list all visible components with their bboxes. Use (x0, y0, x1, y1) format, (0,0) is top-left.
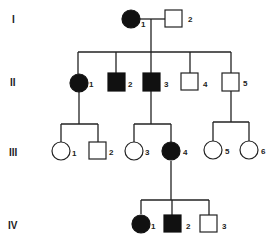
individual-I-2 (165, 10, 182, 27)
individual-number: 1 (151, 222, 156, 231)
individual-number: 2 (109, 148, 114, 157)
individual-number: 1 (89, 80, 94, 89)
individual-number: 2 (186, 222, 191, 231)
individual-IV-2 (164, 215, 181, 232)
generation-label-1: I (12, 14, 15, 25)
individual-II-4 (181, 73, 198, 90)
individual-number: 3 (145, 148, 150, 157)
individual-number: 4 (183, 148, 188, 157)
individual-III-1 (52, 142, 70, 160)
individual-II-1 (70, 74, 88, 92)
connector-lines (61, 19, 249, 215)
individual-III-6 (240, 141, 258, 159)
individual-I-1 (122, 10, 140, 28)
individual-number: 6 (261, 147, 266, 156)
individual-number: 4 (203, 80, 208, 89)
generation-label-3: III (9, 147, 18, 158)
individual-II-3 (143, 73, 160, 91)
individual-number: 1 (72, 149, 77, 158)
generation-label-2: II (10, 77, 16, 88)
individual-number: 2 (188, 15, 193, 24)
individual-IV-1 (132, 215, 150, 233)
individual-number: 1 (141, 20, 146, 29)
individual-number: 3 (164, 80, 169, 89)
generation-label-4: IV (8, 220, 18, 231)
individual-III-5 (204, 141, 222, 159)
individual-III-4 (162, 142, 180, 160)
pedigree-chart: I II III IV 1 2 (0, 0, 275, 246)
individual-II-2 (108, 73, 125, 91)
individual-IV-3 (200, 215, 217, 232)
individual-number: 5 (243, 79, 248, 88)
individual-number: 3 (222, 222, 227, 231)
individual-III-3 (125, 142, 143, 160)
individual-II-5 (222, 73, 239, 91)
individual-III-2 (89, 142, 106, 159)
individual-number: 2 (128, 80, 133, 89)
individual-number: 5 (225, 147, 230, 156)
